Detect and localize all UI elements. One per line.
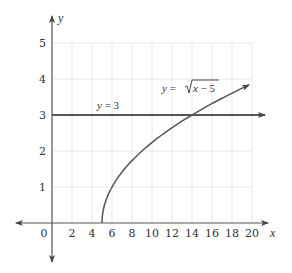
y-tick-label: 4 — [39, 73, 46, 86]
sqrt-curve — [102, 85, 249, 223]
x-tick-label: 12 — [165, 227, 179, 240]
x-tick-label: 8 — [129, 227, 136, 240]
svg-text:x − 5: x − 5 — [192, 82, 216, 94]
x-tick-label: 4 — [89, 227, 96, 240]
y-tick-label: 5 — [39, 37, 46, 50]
y-tick-labels: 12345 — [39, 37, 46, 194]
y-tick-label: 1 — [39, 181, 46, 194]
x-tick-label: 6 — [109, 227, 116, 240]
label-sqrt: y = x − 5 — [161, 80, 219, 94]
x-tick-label: 14 — [185, 227, 199, 240]
chart: x y 02468101214161820 12345 y = 3 y = x … — [0, 0, 292, 273]
x-axis-label: x — [269, 226, 276, 240]
x-tick-label: 16 — [205, 227, 219, 240]
y-tick-label: 3 — [39, 109, 46, 122]
y-tick-label: 2 — [39, 145, 46, 158]
x-tick-label: 2 — [69, 227, 76, 240]
svg-text:y =: y = — [161, 82, 176, 94]
x-tick-label: 20 — [245, 227, 259, 240]
grid — [52, 43, 252, 223]
x-tick-labels: 02468101214161820 — [41, 227, 260, 240]
x-tick-label: 10 — [145, 227, 159, 240]
label-y3: y = 3 — [96, 99, 120, 111]
x-tick-label: 18 — [225, 227, 239, 240]
y-axis-label: y — [57, 11, 64, 25]
x-tick-label: 0 — [41, 227, 48, 240]
